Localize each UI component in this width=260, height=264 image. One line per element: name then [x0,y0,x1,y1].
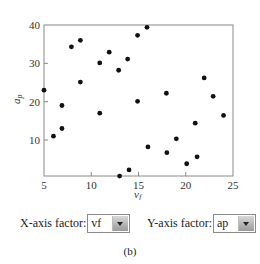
data-point [97,61,102,66]
data-point [125,57,130,62]
x-axis-factor-value: vf [91,216,101,231]
data-point [146,145,151,150]
data-point [107,50,112,55]
y-tick-label: 10 [29,134,41,146]
figure-caption: (b) [0,245,260,257]
x-tick-label: 25 [228,179,240,191]
data-point [164,150,169,155]
data-point [202,76,207,81]
scatter-plot: 51015202510203040 vf ap [0,0,260,200]
y-tick-label: 30 [29,57,41,69]
data-point [116,68,121,73]
y-tick-label: 20 [29,96,41,108]
data-point [221,113,226,118]
data-point [184,161,189,166]
x-axis-factor-control: X-axis factor: vf [20,213,130,233]
data-point [145,25,150,30]
chevron-down-icon[interactable] [112,216,128,231]
y-axis-factor-value: ap [217,216,228,231]
y-tick-label: 40 [29,19,41,31]
data-point [164,91,169,96]
y-axis-factor-label: Y-axis factor: [147,216,212,231]
data-point [60,126,65,131]
y-axis-factor-control: Y-axis factor: ap [147,213,256,233]
data-point [78,80,83,85]
data-point [42,88,47,93]
axis-factor-controls: X-axis factor: vf Y-axis factor: ap [0,213,260,235]
x-tick-label: 20 [180,179,192,191]
data-point [135,33,140,38]
y-axis-title: ap [10,95,24,105]
data-point [127,168,132,173]
y-axis-factor-select[interactable]: ap [213,214,256,233]
data-point [117,174,122,179]
x-axis-factor-label: X-axis factor: [20,216,86,231]
data-point [97,111,102,116]
data-point [69,44,74,49]
x-tick-label: 5 [41,179,47,191]
x-axis-factor-select[interactable]: vf [87,214,130,233]
data-point [78,38,83,43]
data-point [60,103,65,108]
data-point [195,154,200,159]
chevron-down-icon[interactable] [238,216,254,231]
x-tick-label: 10 [86,179,98,191]
data-points [42,25,226,179]
data-point [51,134,56,139]
data-point [193,121,198,126]
data-point [174,136,179,141]
data-point [211,94,216,99]
data-point [135,99,140,104]
